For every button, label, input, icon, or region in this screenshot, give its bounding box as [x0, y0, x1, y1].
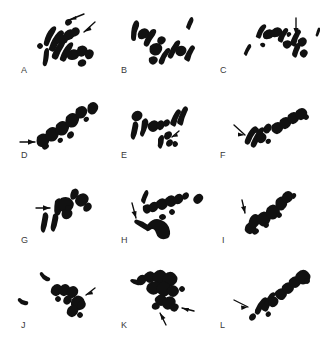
- chromosome-group: [130, 270, 185, 312]
- chromosome-group: [249, 270, 311, 321]
- panel-label-c: C: [220, 66, 227, 75]
- arrow-marker-1: [20, 139, 35, 145]
- chromosome-group: [131, 17, 195, 65]
- arrow-marker-1: [160, 313, 166, 325]
- panel-f: F: [220, 85, 330, 170]
- panel-label-f: F: [220, 151, 226, 160]
- chromosome-group: [134, 190, 203, 239]
- arrow-marker-1: [86, 288, 95, 295]
- arrow-marker-2: [182, 308, 194, 312]
- panel-l: L: [220, 255, 330, 340]
- panel-c: C: [220, 0, 330, 85]
- panel-d: D: [0, 85, 110, 170]
- chromosome-group: [18, 272, 86, 318]
- panel-c-spread: [220, 0, 330, 85]
- panel-label-l: L: [220, 321, 225, 330]
- chromosome-group: [245, 191, 297, 235]
- arrow-marker-2: [84, 22, 95, 32]
- panel-label-d: D: [21, 151, 28, 160]
- panel-label-b: B: [121, 66, 127, 75]
- panel-k: K: [110, 255, 220, 340]
- panel-b: B: [110, 0, 220, 85]
- panel-label-i: I: [222, 236, 225, 245]
- arrow-marker-1: [69, 14, 84, 20]
- arrow-marker-1: [132, 203, 137, 218]
- arrow-marker-1: [234, 125, 245, 137]
- panel-i-spread: [220, 170, 330, 255]
- chromosome-group: [131, 106, 188, 149]
- chromosome-group: [244, 24, 320, 58]
- panel-d-spread: [0, 85, 110, 170]
- chromosome-group: [41, 189, 92, 233]
- panel-i: I: [220, 170, 330, 255]
- chromosome-group: [245, 108, 309, 148]
- panel-j-spread: [0, 255, 110, 340]
- panel-label-h: H: [121, 236, 128, 245]
- arrow-marker-1: [241, 200, 246, 213]
- arrow-marker-1: [234, 300, 248, 310]
- arrow-marker-1: [36, 205, 50, 211]
- panel-h: H: [110, 170, 220, 255]
- panel-a: A: [0, 0, 110, 85]
- panel-j: J: [0, 255, 110, 340]
- panel-g: G: [0, 170, 110, 255]
- panel-a-spread: [0, 0, 110, 85]
- chromosome-group: [37, 19, 94, 67]
- panel-g-spread: [0, 170, 110, 255]
- panel-label-k: K: [121, 321, 127, 330]
- panel-f-spread: [220, 85, 330, 170]
- chromosome-figure: A B: [0, 0, 330, 340]
- arrow-marker-1: [172, 131, 179, 137]
- panel-l-spread: [220, 255, 330, 340]
- panel-label-g: G: [21, 236, 28, 245]
- chromosome-group: [37, 102, 99, 150]
- panel-e: E: [110, 85, 220, 170]
- panel-label-e: E: [121, 151, 127, 160]
- panel-label-j: J: [21, 321, 26, 330]
- panel-label-a: A: [21, 66, 27, 75]
